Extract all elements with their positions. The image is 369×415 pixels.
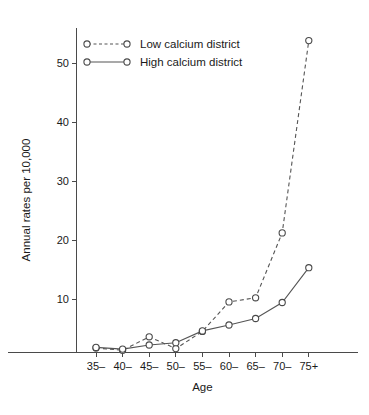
y-tick-label: 20 <box>57 234 69 246</box>
data-point-marker <box>173 340 179 346</box>
series-line-1 <box>96 41 309 351</box>
x-tick-label: 50– <box>167 360 186 372</box>
y-tick-label: 50 <box>57 57 69 69</box>
data-point-marker <box>279 230 285 236</box>
data-point-marker <box>146 334 152 340</box>
line-chart: 102030405035–40–45–50–55–60–65–70–75+Age… <box>0 0 369 415</box>
data-point-marker <box>226 299 232 305</box>
x-tick-label: 65– <box>246 360 265 372</box>
series-line-2 <box>96 268 309 349</box>
y-tick-label: 10 <box>57 293 69 305</box>
x-tick-label: 45– <box>140 360 159 372</box>
x-tick-label: 75+ <box>299 360 318 372</box>
data-point-marker <box>253 315 259 321</box>
x-tick-label: 35– <box>87 360 106 372</box>
data-point-marker <box>279 299 285 305</box>
y-tick-label: 40 <box>57 116 69 128</box>
legend-marker-start-1 <box>84 41 90 47</box>
x-tick-label: 60– <box>220 360 239 372</box>
data-point-marker <box>226 322 232 328</box>
data-point-marker <box>306 265 312 271</box>
legend-label-1: Low calcium district <box>140 38 240 50</box>
x-tick-label: 55– <box>193 360 212 372</box>
y-axis-title: Annual rates per 10,000 <box>20 139 32 262</box>
x-tick-label: 40– <box>113 360 132 372</box>
legend-marker-end-2 <box>124 59 130 65</box>
legend-marker-start-2 <box>84 59 90 65</box>
x-tick-label: 70– <box>273 360 292 372</box>
data-point-marker <box>199 328 205 334</box>
data-point-marker <box>253 295 259 301</box>
data-point-marker <box>93 344 99 350</box>
data-point-marker <box>120 346 126 352</box>
legend-label-2: High calcium district <box>140 56 243 68</box>
y-tick-label: 30 <box>57 175 69 187</box>
legend-marker-end-1 <box>124 41 130 47</box>
chart-container: 102030405035–40–45–50–55–60–65–70–75+Age… <box>0 0 369 415</box>
data-point-marker <box>306 38 312 44</box>
data-point-marker <box>173 346 179 352</box>
data-point-marker <box>146 342 152 348</box>
x-axis-title: Age <box>192 381 212 393</box>
plot-area: 102030405035–40–45–50–55–60–65–70–75+Age… <box>8 28 358 393</box>
